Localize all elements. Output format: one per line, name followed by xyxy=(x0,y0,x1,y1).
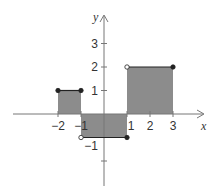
open-endpoint-icon xyxy=(79,135,83,139)
x-tick-label: 3 xyxy=(170,119,177,133)
y-tick-label: −1 xyxy=(84,139,98,153)
x-tick-label: 1 xyxy=(128,119,135,133)
closed-endpoint-icon xyxy=(56,88,60,92)
y-axis-label: y xyxy=(92,10,99,24)
closed-endpoint-icon xyxy=(171,65,175,69)
axes: x y xyxy=(13,10,207,186)
x-tick-label: −2 xyxy=(51,119,65,133)
x-axis-label: x xyxy=(200,119,207,133)
x-tick-label: 2 xyxy=(147,119,154,133)
y-tick-label: 3 xyxy=(91,37,98,51)
shaded-region xyxy=(127,67,173,114)
shaded-region xyxy=(58,91,81,115)
x-tick-label: −1 xyxy=(74,119,88,133)
y-tick-label: 2 xyxy=(91,60,98,74)
y-tick-label: 1 xyxy=(91,84,98,98)
closed-endpoint-icon xyxy=(79,88,83,92)
step-function-plot: x y −2−1123321−1 xyxy=(0,0,219,188)
open-endpoint-icon xyxy=(125,65,129,69)
closed-endpoint-icon xyxy=(125,135,129,139)
